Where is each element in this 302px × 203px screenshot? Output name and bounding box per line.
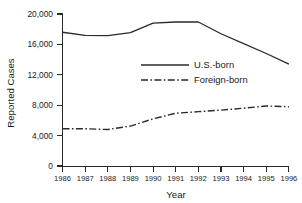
legend-label-foreign-born: Foreign-born [194, 74, 248, 85]
x-tick-label-1988: 1988 [99, 174, 116, 183]
x-axis-ticks: 1986 1987 1988 1989 1990 1991 1992 1993 … [54, 167, 297, 184]
y-tick-label-12000: 12,000 [27, 70, 53, 80]
y-tick-label-8000: 8,000 [32, 100, 53, 110]
y-tick-label-4000: 4,000 [32, 131, 53, 141]
x-tick-label-1996: 1996 [280, 174, 297, 183]
x-axis-title: Year [166, 189, 186, 200]
x-tick-label-1994: 1994 [235, 174, 252, 183]
legend: U.S.-born Foreign-born [141, 59, 248, 85]
y-tick-label-16000: 16,000 [27, 39, 53, 49]
chart-container: 20,000 16,000 12,000 8,000 4,000 0 1986 … [0, 0, 302, 203]
y-tick-label-20000: 20,000 [27, 9, 53, 19]
x-tick-label-1991: 1991 [167, 174, 184, 183]
line-chart: 20,000 16,000 12,000 8,000 4,000 0 1986 … [0, 0, 302, 203]
x-tick-label-1995: 1995 [258, 174, 275, 183]
y-tick-label-0: 0 [48, 161, 53, 171]
axes-group [63, 14, 290, 167]
series-line-foreign-born [63, 106, 289, 130]
x-tick-label-1993: 1993 [213, 174, 230, 183]
series-group [63, 22, 289, 130]
y-axis-title: Reported Cases [5, 58, 16, 128]
y-axis-ticks: 20,000 16,000 12,000 8,000 4,000 0 [27, 9, 62, 171]
series-line-us-born [63, 22, 289, 64]
legend-label-us-born: U.S.-born [194, 59, 234, 70]
x-tick-label-1992: 1992 [190, 174, 207, 183]
x-tick-label-1990: 1990 [145, 174, 162, 183]
x-tick-label-1986: 1986 [54, 174, 71, 183]
x-tick-label-1987: 1987 [77, 174, 94, 183]
x-tick-label-1989: 1989 [122, 174, 139, 183]
